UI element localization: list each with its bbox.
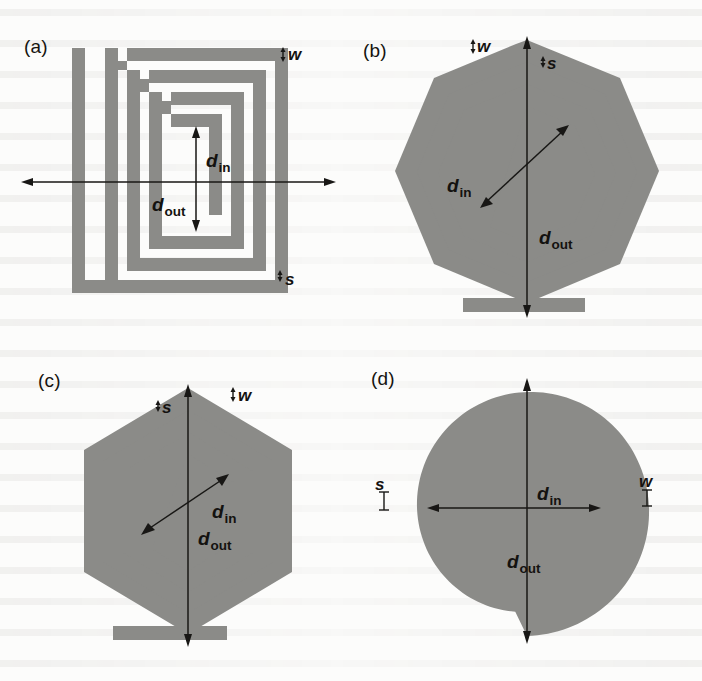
panel-a-d-out-arrow [21, 178, 336, 186]
panel-d-s-tick [379, 492, 389, 510]
panel-a-square-inductor: (a) [0, 0, 351, 340]
panel-a-label: (a) [24, 36, 48, 58]
square-spiral-trace [72, 48, 288, 293]
panel-a-w-label: w [288, 45, 303, 64]
panel-c-label: (c) [38, 370, 61, 392]
panel-c-w-label: w [238, 386, 253, 405]
panel-c-hexagonal-inductor: (c) dou [0, 340, 351, 681]
square-spiral-steps [118, 61, 171, 114]
panel-a-drawing: din dout w s [0, 0, 351, 340]
panel-b-w-label: w [477, 37, 492, 56]
panel-d-label: (d) [371, 368, 395, 390]
hexagon-lead-tail [113, 626, 227, 640]
panel-b-w-tick [471, 39, 476, 54]
circular-spiral-trace [417, 392, 649, 636]
panel-b-drawing: dout din w s [351, 0, 702, 340]
figure-root: (a) [0, 0, 702, 681]
panel-b-label: (b) [363, 40, 387, 62]
panel-d-s-label: s [375, 475, 384, 494]
panel-d-drawing: dout din s w [351, 340, 702, 681]
panel-c-w-tick [231, 387, 236, 402]
panel-b-octagonal-inductor: (b) dou [351, 0, 702, 340]
panel-c-s-label: s [162, 398, 171, 417]
panel-b-s-label: s [547, 54, 556, 73]
panel-a-s-label: s [285, 270, 294, 289]
panel-a-d-in-arrow [192, 126, 200, 232]
panel-d-circular-inductor: (d) dout [351, 340, 702, 681]
panel-d-w-label: w [639, 472, 654, 491]
